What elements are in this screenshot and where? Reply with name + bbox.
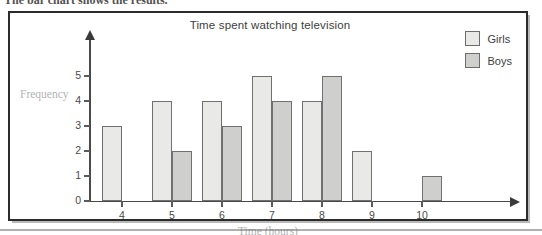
y-axis-tick bbox=[84, 75, 90, 76]
x-axis-tick-label: 7 bbox=[262, 209, 282, 221]
bar-girls-5 bbox=[152, 101, 172, 201]
y-axis-line bbox=[89, 39, 91, 202]
bar-girls-7 bbox=[252, 76, 272, 201]
bar-boys-5 bbox=[172, 151, 192, 201]
bottom-rule bbox=[0, 229, 542, 231]
bar-boys-10 bbox=[422, 176, 442, 201]
x-axis-tick-label: 4 bbox=[112, 209, 132, 221]
x-axis-tick bbox=[121, 201, 122, 207]
x-axis-tick bbox=[421, 201, 422, 207]
x-axis-tick bbox=[271, 201, 272, 207]
y-axis-tick bbox=[84, 150, 90, 151]
x-axis-tick-label: 5 bbox=[162, 209, 182, 221]
cropped-header-text: The bar chart shows the results. bbox=[4, 0, 168, 8]
y-axis-tick-label: 4 bbox=[68, 94, 81, 106]
figure-frame: Time spent watching television Girls Boy… bbox=[8, 11, 528, 221]
x-axis-tick-label: 8 bbox=[312, 209, 332, 221]
y-axis-tick bbox=[84, 175, 90, 176]
x-axis-tick bbox=[371, 201, 372, 207]
bar-girls-6 bbox=[202, 101, 222, 201]
y-axis-arrow-icon bbox=[85, 30, 95, 40]
y-axis-tick bbox=[84, 125, 90, 126]
x-axis-tick-label: 6 bbox=[212, 209, 232, 221]
x-axis-tick bbox=[221, 201, 222, 207]
bar-boys-7 bbox=[272, 101, 292, 201]
y-axis-tick bbox=[84, 200, 90, 201]
bar-boys-6 bbox=[222, 126, 242, 201]
x-axis-tick-label: 10 bbox=[412, 209, 432, 221]
y-axis-tick bbox=[84, 100, 90, 101]
bar-boys-8 bbox=[322, 76, 342, 201]
y-axis-tick-label: 2 bbox=[68, 144, 81, 156]
y-axis-tick-label: 5 bbox=[68, 69, 81, 81]
bar-girls-8 bbox=[302, 101, 322, 201]
x-axis-tick-label: 9 bbox=[362, 209, 382, 221]
y-axis-title: Frequency bbox=[20, 88, 69, 100]
x-axis-tick bbox=[171, 201, 172, 207]
cropped-header-strip: The bar chart shows the results. bbox=[0, 0, 542, 10]
y-axis-tick-label: 1 bbox=[68, 169, 81, 181]
x-axis-tick bbox=[321, 201, 322, 207]
plot-area: Frequency Time (hours) 01234545678910 bbox=[10, 13, 530, 219]
bar-girls-4 bbox=[102, 126, 122, 201]
y-axis-tick-label: 3 bbox=[68, 119, 81, 131]
bar-girls-9 bbox=[352, 151, 372, 201]
y-axis-tick-label: 0 bbox=[68, 194, 81, 206]
x-axis-arrow-icon bbox=[510, 197, 520, 207]
